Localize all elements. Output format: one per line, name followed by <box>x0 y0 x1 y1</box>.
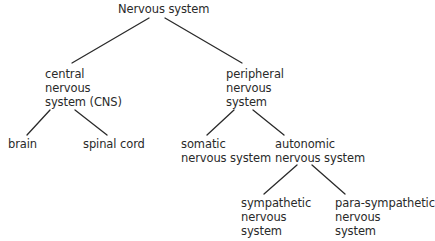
node-label-line: spinal cord <box>83 137 145 151</box>
node-brain: brain <box>8 137 37 151</box>
node-label-line: system (CNS) <box>45 95 122 109</box>
node-central-nervous-system: central nervous system (CNS) <box>45 67 122 109</box>
node-label-line: nervous system <box>181 151 271 165</box>
edge-autonomic-sympathetic <box>264 165 297 194</box>
node-label-line: nervous <box>226 81 284 95</box>
node-label-line: somatic <box>181 137 271 151</box>
edge-root-cns <box>72 18 149 63</box>
node-label-line: system <box>241 224 311 238</box>
node-label-line: system <box>226 95 284 109</box>
edge-cns-spinal-cord <box>75 110 107 135</box>
edge-root-pns <box>165 18 242 63</box>
node-label-line: nervous <box>45 81 122 95</box>
node-label-line: nervous <box>241 210 311 224</box>
edge-cns-brain <box>27 110 50 135</box>
node-label-line: central <box>45 67 122 81</box>
node-nervous-system: Nervous system <box>118 2 209 16</box>
node-label-line: para-sympathetic <box>335 196 435 210</box>
node-sympathetic-nervous-system: sympathetic nervous system <box>241 196 311 238</box>
edge-pns-somatic <box>207 110 234 135</box>
node-parasympathetic-nervous-system: para-sympathetic nervous system <box>335 196 435 238</box>
node-label-line: peripheral <box>226 67 284 81</box>
edge-pns-autonomic <box>253 110 284 135</box>
node-label-line: sympathetic <box>241 196 311 210</box>
edge-autonomic-parasympathetic <box>312 165 345 194</box>
node-label-line: system <box>335 224 435 238</box>
node-spinal-cord: spinal cord <box>83 137 145 151</box>
node-label-line: autonomic <box>275 137 365 151</box>
node-peripheral-nervous-system: peripheral nervous system <box>226 67 284 109</box>
node-label-line: brain <box>8 137 37 151</box>
node-autonomic-nervous-system: autonomic nervous system <box>275 137 365 165</box>
node-somatic-nervous-system: somatic nervous system <box>181 137 271 165</box>
node-label-line: nervous <box>335 210 435 224</box>
node-label-line: Nervous system <box>118 2 209 16</box>
node-label-line: nervous system <box>275 151 365 165</box>
